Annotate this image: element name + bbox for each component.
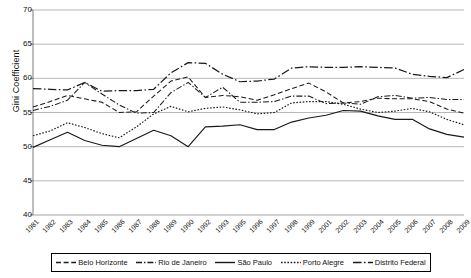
series-line: [33, 82, 464, 113]
legend-line-swatch: [215, 259, 235, 266]
y-axis-tick-label: 60: [12, 74, 32, 82]
y-axis-tick-labels: 40455055606570: [0, 0, 32, 225]
series-line: [33, 110, 464, 147]
legend-item-label: Belo Horizonte: [78, 258, 127, 267]
legend-item[interactable]: São Paulo: [215, 258, 272, 267]
y-axis-tick-label: 65: [12, 40, 32, 48]
gridlines: [33, 10, 464, 215]
legend-item[interactable]: Distrito Federal: [353, 258, 426, 267]
y-axis-tick-label: 55: [12, 109, 32, 117]
legend-item-label: Rio de Janeiro: [158, 258, 206, 267]
legend-item-label: Distrito Federal: [375, 258, 426, 267]
legend-line-swatch: [56, 259, 76, 266]
y-axis-tick-label: 50: [12, 143, 32, 151]
legend-line-swatch: [353, 259, 373, 266]
series-line: [33, 63, 464, 92]
legend-item[interactable]: Porto Alegre: [281, 258, 344, 267]
legend-item[interactable]: Rio de Janeiro: [136, 258, 206, 267]
y-axis-tick-label: 70: [12, 6, 32, 14]
legend-item-label: São Paulo: [237, 258, 272, 267]
gini-coefficient-line-chart: Gini Coefficient 40455055606570 Belo Hor…: [0, 0, 471, 278]
y-axis-tick-label: 40: [12, 211, 32, 219]
series-line: [33, 77, 464, 113]
legend-item-label: Porto Alegre: [303, 258, 344, 267]
legend-line-swatch: [136, 259, 156, 266]
legend-item[interactable]: Belo Horizonte: [56, 258, 127, 267]
legend-line-swatch: [281, 259, 301, 266]
y-axis-tick-label: 45: [12, 177, 32, 185]
data-series-group: [33, 63, 464, 148]
chart-legend: Belo HorizonteRio de JaneiroSão PauloPor…: [51, 253, 431, 272]
